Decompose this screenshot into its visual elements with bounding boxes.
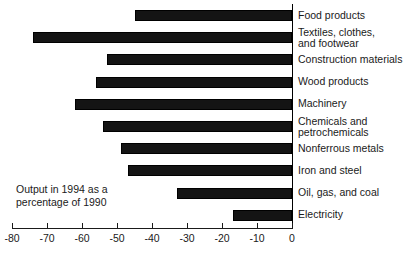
bar-category-label: Oil, gas, and coal xyxy=(298,187,379,199)
bar-category-label-line: Machinery xyxy=(298,99,346,111)
bar-category-label-line: Electricity xyxy=(298,210,343,222)
x-tick xyxy=(292,223,293,229)
bar-category-label: Wood products xyxy=(298,76,368,88)
x-tick xyxy=(257,223,258,229)
bar-category-label-line: and footwear xyxy=(298,38,375,50)
bar-row: Chemicals andpetrochemicals xyxy=(0,121,410,132)
bar-chart: Food productsTextiles, clothes,and footw… xyxy=(0,0,410,258)
bar-row: Food products xyxy=(0,10,410,21)
bar-row: Wood products xyxy=(0,77,410,88)
x-tick xyxy=(187,223,188,229)
chart-annotation: Output in 1994 as a percentage of 1990 xyxy=(16,183,108,209)
x-tick-label: -30 xyxy=(179,232,194,244)
bar-category-label-line: Oil, gas, and coal xyxy=(298,187,379,199)
x-tick xyxy=(222,223,223,229)
x-axis: -80-70-60-50-40-30-20-100 xyxy=(0,228,410,258)
x-tick-label: -60 xyxy=(74,232,89,244)
bar xyxy=(177,188,293,199)
bar-row: Nonferrous metals xyxy=(0,143,410,154)
bar xyxy=(96,77,292,88)
annotation-line-1: Output in 1994 as a xyxy=(16,183,108,196)
bar-category-label: Iron and steel xyxy=(298,165,362,177)
bar xyxy=(121,143,293,154)
bar-category-label: Construction materials xyxy=(298,54,402,66)
x-tick-label: -80 xyxy=(4,232,19,244)
x-tick-label: -20 xyxy=(214,232,229,244)
x-tick xyxy=(152,223,153,229)
bar-row: Electricity xyxy=(0,210,410,221)
bar-category-label-line: Wood products xyxy=(298,76,368,88)
bar-category-label: Nonferrous metals xyxy=(298,143,384,155)
x-tick-label: -40 xyxy=(144,232,159,244)
bar-category-label-line: Nonferrous metals xyxy=(298,143,384,155)
bar-category-label: Electricity xyxy=(298,210,343,222)
x-tick-label: -70 xyxy=(39,232,54,244)
x-tick xyxy=(12,223,13,229)
annotation-line-2: percentage of 1990 xyxy=(16,196,108,209)
bar-category-label-line: Construction materials xyxy=(298,54,402,66)
x-tick xyxy=(82,223,83,229)
bar xyxy=(128,165,293,176)
bar-category-label: Food products xyxy=(298,10,365,22)
bar-category-label-line: petrochemicals xyxy=(298,127,369,139)
bar-row: Iron and steel xyxy=(0,165,410,176)
bar-category-label-line: Chemicals and xyxy=(298,115,369,127)
bar-category-label-line: Iron and steel xyxy=(298,165,362,177)
bar xyxy=(103,121,292,132)
bar-row: Machinery xyxy=(0,99,410,110)
bar-category-label: Textiles, clothes,and footwear xyxy=(298,26,375,49)
bar-category-label: Chemicals andpetrochemicals xyxy=(298,115,369,138)
bar xyxy=(135,10,293,21)
bar-row: Textiles, clothes,and footwear xyxy=(0,32,410,43)
x-tick xyxy=(47,223,48,229)
bar-category-label: Machinery xyxy=(298,99,346,111)
x-tick-label: 0 xyxy=(289,232,295,244)
bar-category-label-line: Textiles, clothes, xyxy=(298,26,375,38)
bar xyxy=(233,210,293,221)
bar xyxy=(33,32,292,43)
x-tick-label: -10 xyxy=(249,232,264,244)
bar xyxy=(107,54,293,65)
bar-row: Construction materials xyxy=(0,54,410,65)
bar xyxy=(75,99,292,110)
x-tick-label: -50 xyxy=(109,232,124,244)
bar-category-label-line: Food products xyxy=(298,10,365,22)
x-tick xyxy=(117,223,118,229)
